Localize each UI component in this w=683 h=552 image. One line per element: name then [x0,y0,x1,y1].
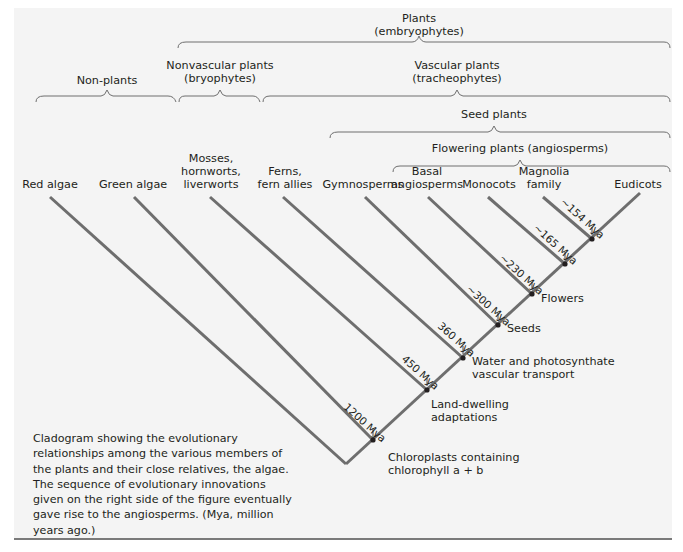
node-land [424,387,429,392]
taxon-magnolia: Magnoliafamily [519,165,570,191]
label-vascular: Vascular plants(tracheophytes) [412,59,501,85]
innovation-land: Land-dwellingadaptations [431,398,509,424]
date-300: ~300 Mya [465,283,513,328]
node-165 [562,261,567,266]
label-seed-plants: Seed plants [461,108,527,121]
taxon-monocots: Monocots [462,178,516,191]
label-non-plants: Non-plants [77,74,138,87]
brace-nonvascular [179,90,260,102]
brace-seed [330,126,670,138]
date-1200: 1200 Mya [342,401,389,445]
taxon-eudicots: Eudicots [614,178,662,191]
brace-vascular [263,90,670,102]
brace-non-plants [36,90,176,102]
taxon-ferns: Ferns,fern allies [258,165,313,191]
label-plants: Plants(embryophytes) [374,12,464,38]
branch-green-algae [134,197,373,440]
taxon-red-algae: Red algae [22,178,78,191]
innovation-water: Water and photosynthatevascular transpor… [472,355,615,381]
branch-ferns [283,197,463,358]
date-165: ~165 Mya [532,222,580,267]
innovation-chloroplasts: Chloroplasts containingchlorophyll a + b [388,451,520,477]
node-vascular [460,355,465,360]
node-seeds [495,322,500,327]
group-labels: Plants(embryophytes) Non-plants Nonvascu… [77,12,609,155]
branch-red-algae [50,197,346,464]
caption-rule [14,538,672,540]
taxon-mosses: Mosses,hornworts,liverworts [181,152,241,191]
innovation-flowers: Flowers [541,292,584,305]
innovation-seeds: Seeds [507,322,541,335]
branch-gymnosperms [365,197,498,325]
branch-basal-angiosperms [428,197,532,294]
taxon-basal-angiosperms: Basalangiosperms [391,165,463,191]
date-230: ~230 Mya [498,252,546,297]
taxon-green-algae: Green algae [99,178,167,191]
taxa-labels: Red algae Green algae Mosses,hornworts,l… [22,152,662,191]
label-flowering: Flowering plants (angiosperms) [432,142,608,155]
figure-caption: Cladogram showing the evolutionary relat… [33,431,298,538]
node-154 [589,236,594,241]
label-nonvascular: Nonvascular plants(bryophytes) [166,59,274,85]
